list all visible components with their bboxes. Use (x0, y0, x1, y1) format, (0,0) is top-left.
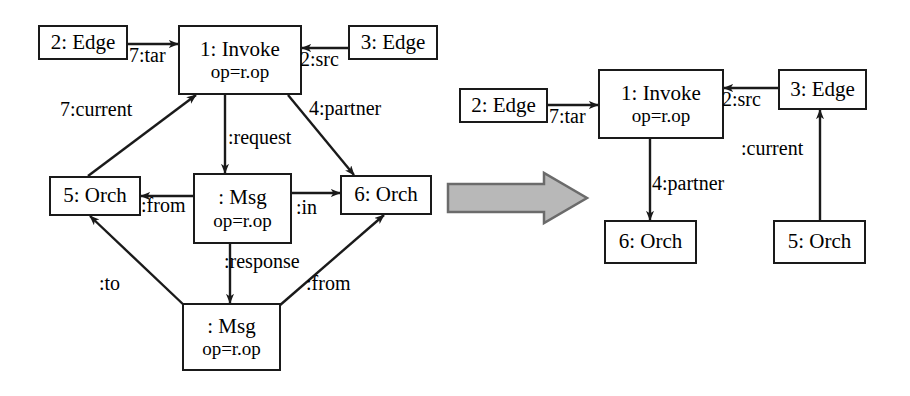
node-subtitle: op=r.op (632, 105, 691, 126)
edge-label-src-right: 2:src (722, 88, 761, 111)
node-2-edge-right[interactable]: 2: Edge (459, 88, 548, 123)
node-3-edge-left[interactable]: 3: Edge (348, 25, 438, 60)
node-msg-request-left[interactable]: : Msg op=r.op (193, 173, 292, 244)
node-title: 5: Orch (63, 184, 127, 208)
node-title: 2: Edge (51, 31, 116, 55)
node-2-edge-left[interactable]: 2: Edge (38, 25, 128, 60)
edge-label-src-left: 2:src (300, 48, 339, 71)
node-1-invoke-right[interactable]: 1: Invoke op=r.op (598, 69, 724, 139)
node-msg-response-left[interactable]: : Msg op=r.op (182, 303, 281, 371)
diagram-canvas: 2: Edge 1: Invoke op=r.op 3: Edge 5: Orc… (0, 0, 910, 396)
node-title: 1: Invoke (621, 82, 701, 106)
edge-label-from-msgres-left: :from (306, 272, 350, 295)
edge-label-tar-left: 7:tar (129, 44, 166, 67)
node-title: 6: Orch (354, 183, 418, 207)
node-subtitle: op=r.op (211, 61, 270, 82)
node-title: 3: Edge (361, 31, 426, 55)
node-5-orch-right[interactable]: 5: Orch (773, 220, 866, 264)
node-title: : Msg (207, 315, 255, 339)
node-title: : Msg (218, 186, 266, 210)
node-3-edge-right[interactable]: 3: Edge (778, 69, 867, 110)
edge-label-from-msgreq-left: :from (141, 194, 185, 217)
edge-label-to-left: :to (99, 272, 120, 295)
edge-label-current-left: 7:current (60, 98, 132, 121)
node-title: 5: Orch (788, 230, 852, 254)
edge-label-tar-right: 7:tar (549, 105, 586, 128)
edge-label-partner-right: 4:partner (652, 172, 724, 195)
edge-label-response-left: :response (224, 250, 300, 273)
edge-label-partner-left: 4:partner (309, 97, 381, 120)
node-1-invoke-left[interactable]: 1: Invoke op=r.op (178, 25, 302, 95)
edge-label-current-right: :current (741, 137, 803, 160)
node-title: 2: Edge (471, 94, 536, 118)
node-title: 6: Orch (619, 230, 683, 254)
edge-label-request-left: :request (228, 126, 291, 149)
node-5-orch-left[interactable]: 5: Orch (49, 176, 141, 216)
node-6-orch-left[interactable]: 6: Orch (340, 175, 432, 215)
node-title: 1: Invoke (200, 38, 280, 62)
node-subtitle: op=r.op (202, 338, 261, 359)
node-subtitle: op=r.op (213, 210, 272, 231)
node-title: 3: Edge (790, 78, 855, 102)
node-6-orch-right[interactable]: 6: Orch (604, 220, 697, 264)
edge-label-in-left: :in (296, 196, 317, 219)
